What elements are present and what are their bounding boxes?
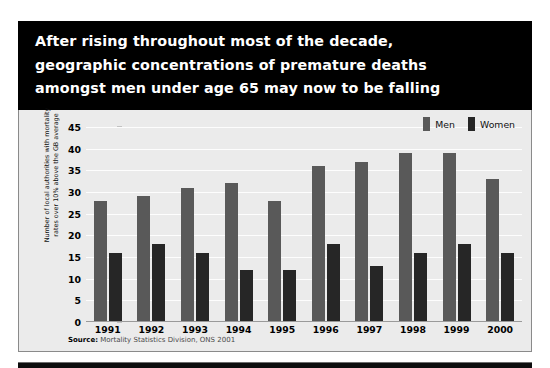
bar-group (225, 127, 253, 322)
legend-label: Men (435, 119, 455, 130)
legend-item-men[interactable]: Men (423, 117, 455, 131)
title-line-2: geographic concentrations of premature d… (35, 54, 532, 78)
bar-men-1999[interactable] (443, 153, 456, 322)
title-line-1: After rising throughout most of the deca… (35, 30, 532, 54)
bar-group (443, 127, 471, 322)
bar-men-1992[interactable] (137, 196, 150, 322)
legend-label: Women (480, 119, 515, 130)
legend-swatch-icon (423, 117, 430, 131)
bottom-strip (18, 362, 532, 368)
bar-men-1996[interactable] (312, 166, 325, 322)
bar-women-1999[interactable] (458, 244, 471, 322)
bar-men-1997[interactable] (355, 162, 368, 322)
source-text: Mortality Statistics Division, ONS 2001 (100, 336, 235, 344)
legend-swatch-icon (468, 117, 475, 131)
source-prefix: Source: (68, 336, 98, 344)
title-line-3: amongst men under age 65 may now to be f… (35, 77, 532, 101)
bar-women-1995[interactable] (283, 270, 296, 322)
legend: MenWomen (423, 117, 515, 131)
y-tick-label: 15 (55, 252, 81, 263)
bar-men-2000[interactable] (486, 179, 499, 322)
x-axis-line (86, 321, 522, 322)
y-axis-title-line-1: Number of local authorities with mortali… (43, 108, 53, 243)
bar-men-1998[interactable] (399, 153, 412, 322)
x-label-1998: 1998 (393, 324, 433, 335)
y-tick-label: 40 (55, 143, 81, 154)
bar-women-1996[interactable] (327, 244, 340, 322)
y-tick-label: 5 (55, 295, 81, 306)
y-tick-label: 25 (55, 208, 81, 219)
x-label-2000: 2000 (480, 324, 520, 335)
y-tick-label: 30 (55, 187, 81, 198)
bar-men-1991[interactable] (94, 201, 107, 322)
y-tick-label: 35 (55, 165, 81, 176)
bar-group (94, 127, 122, 322)
bar-group (181, 127, 209, 322)
y-tick-label: 45 (55, 122, 81, 133)
x-label-1994: 1994 (219, 324, 259, 335)
y-tick-label: 20 (55, 230, 81, 241)
y-axis-ticks: 051015202530354045 (55, 127, 81, 322)
plot-area (86, 127, 522, 322)
x-label-1996: 1996 (306, 324, 346, 335)
x-label-1992: 1992 (131, 324, 171, 335)
chart-panel: Number of local authorities with mortali… (18, 110, 532, 352)
bar-women-1998[interactable] (414, 253, 427, 322)
bar-women-1991[interactable] (109, 253, 122, 322)
bar-group (137, 127, 165, 322)
bar-series-container (86, 127, 522, 322)
y-tick-label: 10 (55, 273, 81, 284)
x-label-1999: 1999 (437, 324, 477, 335)
bar-women-1993[interactable] (196, 253, 209, 322)
bar-men-1993[interactable] (181, 188, 194, 322)
bar-group (312, 127, 340, 322)
title-banner: After rising throughout most of the deca… (18, 21, 532, 110)
bar-group (355, 127, 383, 322)
x-label-1991: 1991 (88, 324, 128, 335)
bar-women-1997[interactable] (370, 266, 383, 322)
bar-group (399, 127, 427, 322)
x-label-1995: 1995 (262, 324, 302, 335)
legend-item-women[interactable]: Women (468, 117, 515, 131)
bar-group (268, 127, 296, 322)
y-tick-label: 0 (55, 317, 81, 328)
x-axis-labels: 1991199219931994199519961997199819992000 (86, 324, 522, 335)
x-label-1993: 1993 (175, 324, 215, 335)
x-label-1997: 1997 (349, 324, 389, 335)
bar-women-1994[interactable] (240, 270, 253, 322)
bar-men-1994[interactable] (225, 183, 238, 322)
source-note: Source: Mortality Statistics Division, O… (68, 336, 235, 344)
bar-women-2000[interactable] (501, 253, 514, 322)
bar-women-1992[interactable] (152, 244, 165, 322)
bar-group (486, 127, 514, 322)
bar-men-1995[interactable] (268, 201, 281, 322)
